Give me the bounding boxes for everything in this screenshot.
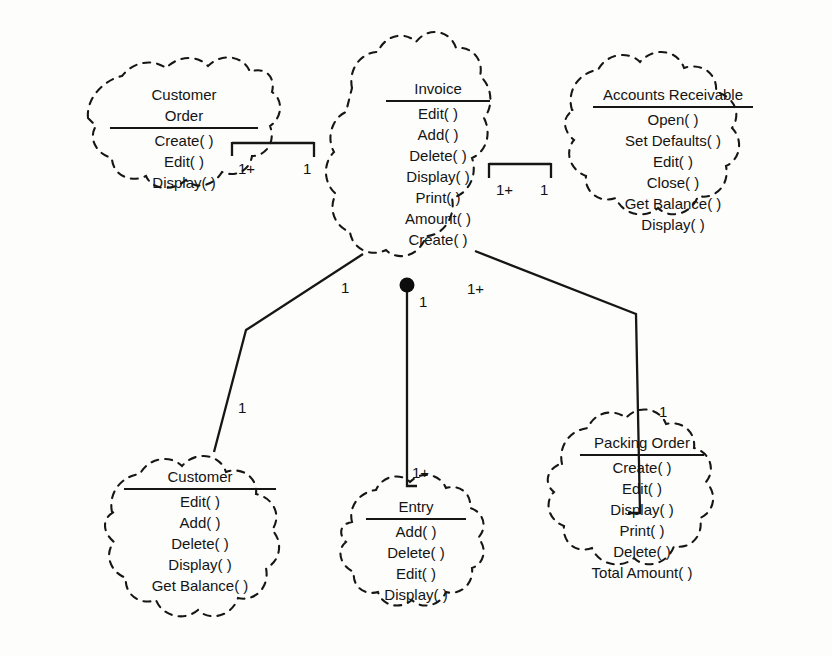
- multiplicity-label: 1: [303, 161, 311, 176]
- node-method: Add( ): [110, 512, 290, 533]
- multiplicity-label: 1: [540, 182, 548, 197]
- node-divider: [580, 454, 704, 456]
- node-method: Open( ): [578, 109, 768, 130]
- node-method: Delete( ): [566, 541, 718, 562]
- multiplicity-label: 1+: [467, 281, 484, 296]
- node-invoice[interactable]: Invoice Edit( )Add( )Delete( )Display( )…: [370, 78, 506, 250]
- diagram-canvas: CustomerOrder Create( )Edit( )Display( )…: [0, 0, 832, 656]
- node-methods: Open( )Set Defaults( )Edit( )Close( )Get…: [578, 109, 768, 235]
- node-method: Create( ): [370, 229, 506, 250]
- multiplicity-label: 1+: [412, 465, 429, 480]
- node-accounts-receivable[interactable]: Accounts Receivable Open( )Set Defaults(…: [578, 84, 768, 235]
- node-method: Get Balance( ): [110, 575, 290, 596]
- node-methods: Add( )Delete( )Edit( )Display( ): [348, 521, 484, 605]
- node-title: Invoice: [370, 78, 506, 99]
- node-divider: [593, 106, 753, 108]
- node-title: Accounts Receivable: [578, 84, 768, 105]
- node-title-line: Order: [114, 105, 254, 126]
- node-method: Set Defaults( ): [578, 130, 768, 151]
- node-method: Edit( ): [566, 478, 718, 499]
- node-method: Total Amount( ): [566, 562, 718, 583]
- node-divider: [110, 127, 258, 129]
- multiplicity-label: 1: [659, 404, 667, 419]
- node-method: Display( ): [370, 166, 506, 187]
- node-divider: [366, 518, 466, 520]
- node-title: Packing Order: [566, 432, 718, 453]
- multiplicity-label: 1: [419, 294, 427, 309]
- node-method: Display( ): [566, 499, 718, 520]
- node-method: Get Balance( ): [578, 193, 768, 214]
- node-method: Edit( ): [348, 563, 484, 584]
- multiplicity-label: 1: [238, 400, 246, 415]
- node-entry[interactable]: Entry Add( )Delete( )Edit( )Display( ): [348, 496, 484, 605]
- node-method: Create( ): [108, 130, 260, 151]
- node-divider: [124, 488, 276, 490]
- node-method: Delete( ): [370, 145, 506, 166]
- node-method: Edit( ): [370, 103, 506, 124]
- node-method: Display( ): [110, 554, 290, 575]
- node-method: Add( ): [348, 521, 484, 542]
- node-title-line: Customer: [114, 84, 254, 105]
- node-title-line: Packing Order: [572, 432, 712, 453]
- node-method: Close( ): [578, 172, 768, 193]
- node-method: Print( ): [566, 520, 718, 541]
- node-methods: Create( )Edit( )Display( )Print( )Delete…: [566, 457, 718, 583]
- node-method: Amount( ): [370, 208, 506, 229]
- node-title: Customer: [110, 466, 290, 487]
- multiplicity-label: 1+: [238, 161, 255, 176]
- node-packing-order[interactable]: Packing Order Create( )Edit( )Display( )…: [566, 432, 718, 583]
- node-method: Display( ): [578, 214, 768, 235]
- node-title-line: Accounts Receivable: [584, 84, 762, 105]
- multiplicity-label: 1+: [496, 182, 513, 197]
- node-method: Add( ): [370, 124, 506, 145]
- node-methods: Edit( )Add( )Delete( )Display( )Get Bala…: [110, 491, 290, 596]
- node-methods: Edit( )Add( )Delete( )Display( )Print( )…: [370, 103, 506, 250]
- node-title: Entry: [348, 496, 484, 517]
- node-divider: [386, 100, 490, 102]
- node-method: Edit( ): [110, 491, 290, 512]
- connector-invoice-entry: [407, 287, 417, 486]
- node-title-line: Customer: [116, 466, 284, 487]
- multiplicity-label: 1: [341, 280, 349, 295]
- node-method: Delete( ): [348, 542, 484, 563]
- node-method: Print( ): [370, 187, 506, 208]
- node-customer[interactable]: Customer Edit( )Add( )Delete( )Display( …: [110, 466, 290, 596]
- node-method: Edit( ): [578, 151, 768, 172]
- node-title: CustomerOrder: [108, 84, 260, 126]
- composition-diamond-icon: [400, 278, 415, 293]
- node-title-line: Entry: [354, 496, 478, 517]
- node-method: Delete( ): [110, 533, 290, 554]
- node-title-line: Invoice: [376, 78, 500, 99]
- node-method: Create( ): [566, 457, 718, 478]
- node-method: Display( ): [348, 584, 484, 605]
